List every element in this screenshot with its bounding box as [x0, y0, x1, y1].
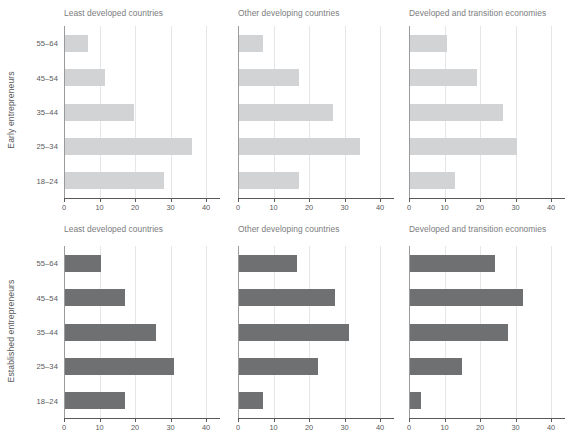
axis-tick	[238, 199, 239, 202]
axis-tick	[380, 419, 381, 422]
panel-title: Developed and transition economies	[409, 8, 546, 18]
bar	[239, 358, 318, 375]
axis-tick-label: 40	[547, 423, 555, 432]
bar	[239, 255, 297, 272]
bar	[239, 324, 349, 341]
category-label: 18–24	[36, 396, 58, 405]
axis-tick	[516, 199, 517, 202]
gridline	[551, 26, 552, 198]
axis-tick-label: 30	[166, 203, 174, 212]
plot-area	[409, 246, 573, 418]
category-label: 25–34	[36, 362, 58, 371]
axis-tick	[516, 419, 517, 422]
axis-tick-label: 20	[305, 423, 313, 432]
value-axis-baseline	[409, 198, 565, 199]
panel-title: Other developing countries	[238, 224, 339, 234]
panel-title: Developed and transition economies	[409, 224, 546, 234]
bar	[65, 172, 164, 189]
axis-tick-label: 40	[202, 423, 210, 432]
chart-panel: Least developed countries010203040	[64, 220, 228, 440]
bar	[65, 289, 125, 306]
axis-tick-label: 30	[511, 423, 519, 432]
axis-tick	[345, 419, 346, 422]
bar	[410, 138, 517, 155]
bar	[239, 172, 299, 189]
axis-tick	[238, 419, 239, 422]
bar	[239, 69, 299, 86]
row-axis-label-text: Early entrepreneurs	[6, 71, 16, 148]
panel-title: Least developed countries	[64, 8, 163, 18]
panel-title: Least developed countries	[64, 224, 163, 234]
bar	[65, 138, 192, 155]
category-label: 18–24	[36, 176, 58, 185]
plot-area	[64, 246, 228, 418]
gridline	[516, 26, 517, 198]
bar	[410, 324, 508, 341]
bar	[239, 289, 335, 306]
axis-tick	[309, 199, 310, 202]
row-axis-label-text: Established entrepreneurs	[6, 279, 16, 382]
axis-tick-label: 10	[440, 203, 448, 212]
category-label: 55–64	[36, 259, 58, 268]
gridline	[206, 26, 207, 198]
axis-tick	[100, 419, 101, 422]
bar	[410, 35, 447, 52]
axis-tick	[274, 419, 275, 422]
axis-tick-label: 40	[547, 203, 555, 212]
axis-tick	[345, 199, 346, 202]
axis-tick-label: 20	[131, 203, 139, 212]
axis-tick-label: 0	[236, 423, 240, 432]
chart-panel: Least developed countries010203040	[64, 0, 228, 220]
bar	[410, 172, 455, 189]
axis-tick-label: 40	[202, 203, 210, 212]
category-axis-labels: 18–2425–3435–4445–5455–64	[24, 26, 58, 198]
axis-tick	[274, 199, 275, 202]
plot-area	[409, 26, 573, 198]
chart-panel: Other developing countries010203040	[238, 0, 402, 220]
axis-tick	[64, 199, 65, 202]
bar	[410, 392, 421, 409]
axis-tick	[445, 199, 446, 202]
bar	[410, 289, 523, 306]
bar	[65, 358, 174, 375]
bar	[410, 358, 462, 375]
axis-tick-label: 0	[407, 203, 411, 212]
chart-panel: Developed and transition economies010203…	[409, 220, 573, 440]
bar	[65, 392, 125, 409]
gridline	[551, 246, 552, 418]
plot-area	[238, 246, 402, 418]
category-label: 35–44	[36, 108, 58, 117]
axis-tick	[171, 419, 172, 422]
axis-tick-label: 10	[440, 423, 448, 432]
axis-tick	[380, 199, 381, 202]
gridline	[345, 26, 346, 198]
gridline	[206, 246, 207, 418]
row-axis-label: Early entrepreneurs	[2, 0, 20, 220]
axis-tick-label: 20	[476, 203, 484, 212]
chart-panel: Developed and transition economies010203…	[409, 0, 573, 220]
axis-tick-label: 20	[305, 203, 313, 212]
gridline	[516, 246, 517, 418]
axis-tick-label: 0	[407, 423, 411, 432]
chart-row-early: Early entrepreneurs18–2425–3435–4445–545…	[0, 0, 573, 220]
chart-row-established: Established entrepreneurs18–2425–3435–44…	[0, 220, 573, 441]
value-axis-baseline	[238, 418, 394, 419]
bar	[239, 35, 263, 52]
axis-tick-label: 30	[340, 423, 348, 432]
gridline	[171, 26, 172, 198]
axis-tick-label: 0	[236, 203, 240, 212]
category-label: 45–54	[36, 293, 58, 302]
axis-tick	[445, 419, 446, 422]
axis-tick-label: 10	[95, 423, 103, 432]
bar	[239, 104, 333, 121]
bar	[410, 69, 477, 86]
axis-tick	[171, 199, 172, 202]
value-axis-baseline	[64, 198, 220, 199]
axis-tick-label: 20	[476, 423, 484, 432]
gridline	[380, 26, 381, 198]
value-axis-baseline	[64, 418, 220, 419]
axis-tick	[309, 419, 310, 422]
category-axis-labels: 18–2425–3435–4445–5455–64	[24, 246, 58, 418]
axis-tick-label: 20	[131, 423, 139, 432]
value-axis-baseline	[238, 198, 394, 199]
